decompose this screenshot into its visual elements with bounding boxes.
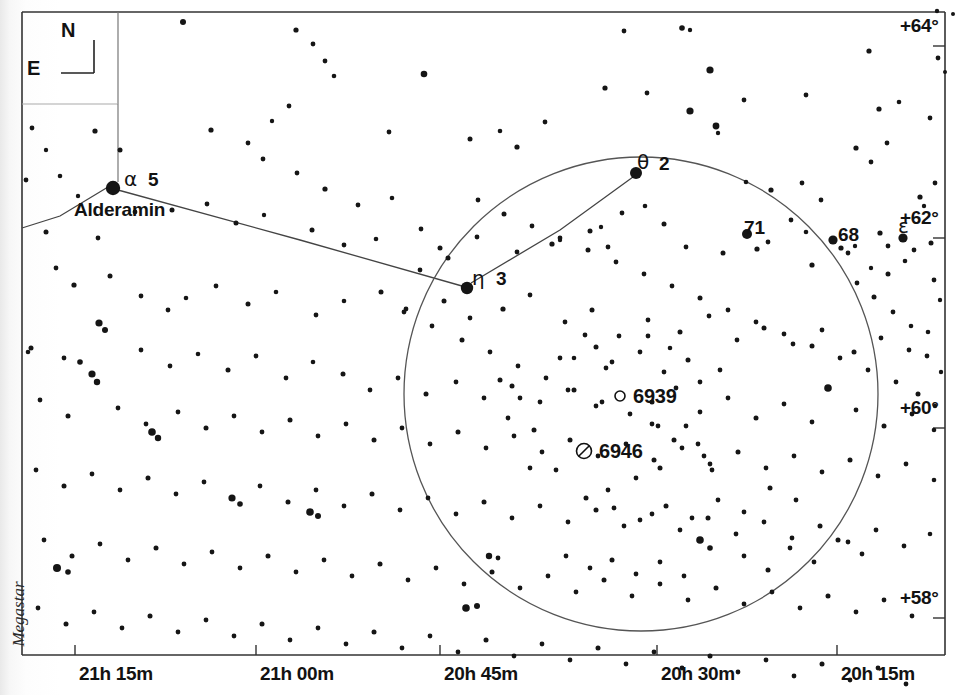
star-dot — [818, 524, 823, 529]
star-dot — [932, 278, 937, 283]
named-star-star-68[interactable] — [828, 235, 837, 244]
star-dot — [92, 610, 97, 615]
star-dot — [794, 498, 799, 503]
star-dot — [682, 574, 687, 579]
star-dot — [62, 356, 67, 361]
star-dot — [826, 594, 831, 599]
star-dot — [909, 324, 914, 329]
eta-greek-label: η — [472, 268, 485, 288]
star-dot — [602, 85, 607, 90]
star-dot — [891, 310, 896, 315]
star-68-label: 68 — [838, 225, 859, 244]
star-dot — [402, 310, 407, 315]
star-dot — [860, 552, 865, 557]
star-dot — [306, 508, 314, 516]
star-dot — [228, 494, 235, 501]
star-dot — [460, 338, 465, 343]
dec-label-58: +58° — [900, 588, 939, 607]
star-dot — [490, 570, 495, 575]
star-dot — [71, 282, 76, 287]
star-dot — [614, 260, 619, 265]
star-dot — [903, 259, 908, 264]
star-dot — [372, 438, 377, 443]
star-dot — [92, 128, 97, 133]
star-dot — [646, 318, 651, 323]
star-dot — [734, 532, 739, 537]
star-dot — [94, 379, 100, 385]
star-dot — [714, 586, 719, 591]
star-dot — [204, 618, 209, 623]
star-dot — [726, 308, 731, 313]
ngc-6939-symbol[interactable] — [615, 391, 625, 401]
star-dot — [77, 359, 83, 365]
star-dot — [706, 66, 713, 73]
star-dot — [662, 222, 667, 227]
star-dot — [852, 350, 857, 355]
star-dot — [764, 658, 769, 663]
star-dot — [568, 658, 573, 663]
star-dot — [29, 346, 34, 351]
right-ascension-ticks — [75, 645, 837, 655]
star-dot — [262, 213, 266, 217]
star-dot — [342, 299, 347, 304]
star-dot — [538, 504, 543, 509]
star-dot — [316, 434, 321, 439]
star-dot — [530, 224, 535, 229]
star-dot — [95, 319, 102, 326]
named-star-alderamin[interactable] — [106, 181, 120, 195]
star-dot — [434, 566, 439, 571]
star-dot — [502, 212, 507, 217]
star-dot — [498, 129, 503, 134]
star-dot — [634, 572, 639, 577]
star-dot — [510, 516, 515, 521]
star-dot — [642, 272, 647, 277]
star-dot — [430, 324, 435, 329]
star-dot — [202, 480, 207, 485]
star-dot — [710, 468, 715, 473]
star-dot — [166, 308, 171, 313]
star-dot — [672, 438, 677, 443]
compass-north-label: N — [61, 20, 75, 40]
star-dot — [176, 630, 181, 635]
star-dot — [645, 91, 650, 96]
star-dot — [742, 98, 747, 103]
star-dot — [486, 553, 492, 559]
star-dot — [148, 614, 153, 619]
star-dot — [612, 506, 617, 511]
star-dot — [764, 466, 769, 471]
star-dot — [916, 392, 921, 397]
star-dot — [246, 141, 251, 146]
star-dot — [882, 598, 887, 603]
star-dot — [624, 662, 629, 667]
star-dot — [622, 29, 627, 34]
star-dot — [76, 194, 80, 198]
star-dot — [512, 654, 517, 659]
star-dot — [314, 313, 319, 318]
star-dot — [98, 542, 103, 547]
star-dot — [528, 466, 533, 471]
star-dot — [935, 9, 939, 13]
ngc-6939-label: 6939 — [633, 386, 677, 406]
star-dot — [819, 198, 824, 203]
ngc-6946-symbol[interactable] — [577, 444, 592, 459]
star-dot — [735, 338, 740, 343]
star-dot — [754, 246, 759, 251]
star-dot — [789, 218, 794, 223]
star-dot — [311, 42, 316, 47]
star-dot — [643, 204, 648, 209]
star-dot — [656, 424, 661, 429]
star-dot — [515, 250, 520, 255]
star-dot — [696, 442, 701, 447]
star-dot — [894, 380, 899, 385]
star-dot — [468, 316, 473, 321]
star-dot — [379, 290, 384, 295]
star-dot — [670, 284, 675, 289]
star-dot — [482, 500, 487, 505]
star-dot — [387, 130, 392, 135]
star-dot — [707, 545, 713, 551]
star-dot — [210, 550, 215, 555]
star-dot — [572, 388, 577, 393]
star-dot — [869, 266, 873, 270]
star-dot — [686, 358, 691, 363]
star-dot — [810, 420, 815, 425]
